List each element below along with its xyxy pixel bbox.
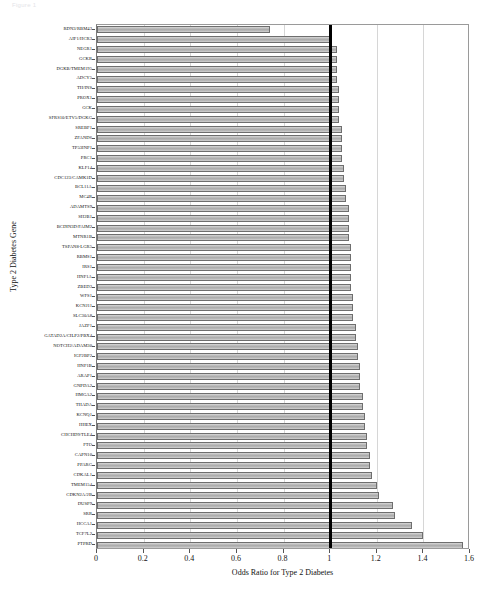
y-axis-tick	[92, 475, 95, 476]
bar-row	[97, 363, 469, 370]
y-axis-tick-label: PPARG	[77, 462, 92, 468]
y-axis-tick	[92, 128, 95, 129]
y-axis-tick	[92, 158, 95, 159]
bar-row	[97, 205, 469, 212]
y-axis-tick-label: THADA	[76, 402, 92, 408]
reference-line-or-1	[329, 25, 332, 548]
y-axis-tick-label: GCKR	[79, 56, 92, 62]
y-axis-tick-label: ADAMTS9	[70, 204, 92, 210]
bar	[97, 353, 358, 360]
bar	[97, 254, 351, 261]
bar	[97, 145, 342, 152]
bar-row	[97, 76, 469, 83]
y-axis-tick	[92, 524, 95, 525]
bar-row	[97, 165, 469, 172]
plot-area	[96, 24, 469, 549]
y-axis-tick	[92, 346, 95, 347]
y-axis-tick-label: GNPDA2	[74, 383, 92, 389]
bar	[97, 244, 351, 251]
y-axis-tick-label: HCCA1	[77, 521, 92, 527]
y-axis-tick	[92, 257, 95, 258]
y-axis-tick-label: CDC123/CAMK1D	[54, 175, 92, 181]
y-axis-tick-label: SREBF1	[75, 125, 92, 131]
bar	[97, 155, 342, 162]
y-axis-tick-label: KLF14	[78, 165, 92, 171]
y-axis-tick	[92, 207, 95, 208]
y-axis-tick	[92, 386, 95, 387]
y-axis-tick-label: ZFAND6	[74, 135, 92, 141]
bar-row	[97, 244, 469, 251]
y-axis-tick	[92, 534, 95, 535]
bar-row	[97, 393, 469, 400]
y-axis-tick-label: HNF1A	[77, 274, 92, 280]
bar-row	[97, 373, 469, 380]
y-axis-tick-label: SLC30A8	[73, 313, 92, 319]
bar	[97, 165, 344, 172]
y-axis-title: Type 2 Diabetes Gene	[9, 197, 18, 317]
y-axis-tick	[92, 405, 95, 406]
bar-row	[97, 502, 469, 509]
bar-row	[97, 284, 469, 291]
bar-row	[97, 135, 469, 142]
x-axis-tick-label: 0	[94, 553, 98, 564]
bar	[97, 433, 367, 440]
y-axis-tick-label: CAPN10	[75, 452, 92, 458]
bar	[97, 373, 360, 380]
y-axis-tick	[92, 435, 95, 436]
y-axis-tick-label: SH2B1	[78, 214, 92, 220]
y-axis-tick-label: CHCHD9/TLE4	[61, 432, 92, 438]
y-axis-tick-label: NOTCH2/ADAM30	[53, 343, 92, 349]
y-axis-tick	[92, 445, 95, 446]
x-axis-tick-label: 1.2	[371, 553, 381, 564]
y-axis-tick-label: CDKAL1	[74, 472, 92, 478]
y-axis-tick-label: PROX1	[77, 95, 92, 101]
bar-row	[97, 383, 469, 390]
bar-row	[97, 254, 469, 261]
bar-row	[97, 413, 469, 420]
bar	[97, 442, 367, 449]
y-axis-tick	[92, 465, 95, 466]
y-axis-tick-label: RDN3/RBM43	[63, 26, 92, 32]
y-axis-tick	[92, 455, 95, 456]
bar-row	[97, 442, 469, 449]
bar	[97, 96, 339, 103]
y-axis-tick-label: WFS1	[80, 293, 92, 299]
bar-row	[97, 324, 469, 331]
bar	[97, 343, 358, 350]
y-axis-tick	[92, 504, 95, 505]
bar	[97, 284, 351, 291]
y-axis-tick-label: AIF1/HCR3	[69, 36, 92, 42]
bar-row	[97, 343, 469, 350]
y-axis-tick	[92, 485, 95, 486]
bar	[97, 56, 337, 63]
bar	[97, 482, 377, 489]
y-axis-tick-label: TP53INP1	[72, 145, 92, 151]
bar-row	[97, 462, 469, 469]
y-axis-tick-label: GCK	[82, 105, 92, 111]
x-axis-title: Odds Ratio for Type 2 Diabetes	[96, 568, 469, 577]
bar	[97, 363, 360, 370]
x-axis-tick-label: 0.8	[278, 553, 288, 564]
bar-row	[97, 46, 469, 53]
y-axis-tick-label: BCDIN3D/FAIM2	[57, 224, 92, 230]
bar-row	[97, 145, 469, 152]
y-axis-tick-label: IRS1	[82, 264, 92, 270]
y-axis-tick	[92, 138, 95, 139]
y-axis-tick-label: HMGA2	[75, 392, 92, 398]
y-axis-tick-label: SFRS10/ETV5/DGKG	[49, 115, 92, 121]
y-axis-tick	[92, 544, 95, 545]
bar-row	[97, 106, 469, 113]
x-axis-tick-label: 0.6	[231, 553, 241, 564]
y-axis-tick	[92, 316, 95, 317]
bar-row	[97, 66, 469, 73]
bar-row	[97, 452, 469, 459]
x-axis-tick-labels: 00.20.40.60.811.21.41.6	[96, 553, 469, 567]
y-axis-tick	[92, 29, 95, 30]
y-axis-tick	[92, 237, 95, 238]
y-axis-tick-label: MTNR1B	[73, 234, 92, 240]
x-axis-tick-label: 1	[327, 553, 331, 564]
bar	[97, 195, 346, 202]
y-axis-tick-label: DGKB/TMEM195	[56, 66, 92, 72]
bar	[97, 215, 349, 222]
bar	[97, 126, 342, 133]
